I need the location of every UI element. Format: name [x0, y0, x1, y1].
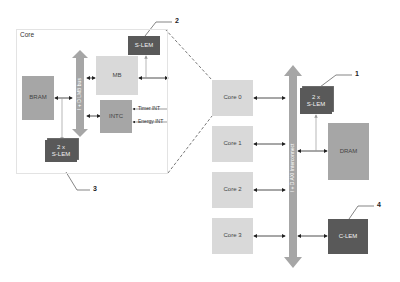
intc-block: INTC [100, 100, 132, 133]
mb-label: MB [113, 72, 122, 80]
slem-system-count: 2 x [312, 94, 320, 102]
axi-interconnect-label: I + D AXI Interconnect [289, 108, 297, 228]
slem-core-stack: 2 x S-LEM [45, 140, 77, 162]
slem-top-label: S-LEM [135, 42, 153, 50]
mb-block: MB [96, 56, 138, 95]
slem-top-block: S-LEM [128, 36, 160, 55]
slem-core-count: 2 x [57, 144, 65, 152]
core-3-block: Core 3 [212, 218, 253, 254]
core-2-block: Core 2 [212, 172, 253, 208]
timer-int-label: Timer INT [138, 105, 160, 111]
slem-core-label: S-LEM [52, 151, 70, 159]
core-0-block: Core 0 [212, 80, 253, 116]
energy-int-label: Energy INT [138, 118, 163, 124]
lmb-bus-label: I + D LMB bus [76, 74, 84, 114]
core-1-block: Core 1 [212, 126, 253, 162]
slem-system-stack: 2 x S-LEM [300, 88, 332, 114]
bram-label: BRAM [29, 94, 46, 102]
callout-1: 1 [355, 70, 359, 77]
callout-2: 2 [175, 17, 179, 24]
clem-block: C-LEM [328, 219, 368, 254]
slem-system-label: S-LEM [307, 101, 325, 109]
callout-4: 4 [377, 201, 381, 208]
intc-label: INTC [109, 113, 123, 121]
dram-block: DRAM [328, 123, 369, 180]
core-detail-title: Core [20, 31, 34, 38]
callout-3: 3 [93, 185, 97, 192]
bram-block: BRAM [22, 76, 54, 120]
